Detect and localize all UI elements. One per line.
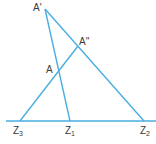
label-z2: Z2 bbox=[140, 125, 150, 137]
line-z3-a-double-prime bbox=[20, 46, 78, 121]
label-z1: Z1 bbox=[65, 125, 75, 137]
line-a-prime-z2 bbox=[45, 9, 144, 121]
label-a-prime: A' bbox=[33, 2, 42, 13]
geometry-diagram: A' A'' A Z3 Z1 Z2 bbox=[0, 0, 156, 144]
label-a-double-prime: A'' bbox=[79, 36, 90, 47]
label-a: A bbox=[46, 64, 53, 75]
label-z3: Z3 bbox=[13, 125, 23, 137]
